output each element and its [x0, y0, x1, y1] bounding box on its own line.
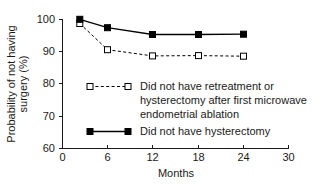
- legend-marker-filled-square-left: [87, 129, 93, 135]
- legend-marker-open-square-right: [125, 84, 131, 90]
- legend-label-no-retreatment-line1: Did not have retreatment or: [140, 80, 274, 92]
- legend-entry-no-hysterectomy: Did not have hysterectomy: [87, 125, 271, 137]
- y-tick-label-60: 60: [43, 142, 55, 154]
- x-axis-ticks: [63, 145, 289, 149]
- legend-marker-filled-square-right: [125, 129, 131, 135]
- y-tick-label-100: 100: [37, 13, 55, 25]
- legend-label-no-retreatment-line2: hysterectomy after first microwave: [140, 94, 307, 106]
- x-tick-label-30: 30: [282, 151, 294, 163]
- y-tick-label-70: 70: [43, 110, 55, 122]
- x-tick-label-0: 0: [59, 151, 65, 163]
- legend-label-no-retreatment-line3: endometrial ablation: [140, 108, 239, 120]
- y-tick-label-90: 90: [43, 45, 55, 57]
- line-chart-plot: 100 90 80 70 60 0 6 12 18 24 30 Months P…: [0, 0, 316, 184]
- y-axis-ticks: [59, 20, 63, 149]
- y-axis-title-line1: Probability of not having: [5, 25, 17, 142]
- legend-entry-no-retreatment: Did not have retreatment or hysterectomy…: [87, 80, 307, 120]
- y-axis-title-line2: surgery (%): [17, 56, 29, 113]
- legend-marker-open-square-left: [87, 84, 93, 90]
- x-tick-label-6: 6: [104, 151, 110, 163]
- x-tick-label-18: 18: [192, 151, 204, 163]
- y-tick-label-80: 80: [43, 77, 55, 89]
- x-tick-label-12: 12: [146, 151, 158, 163]
- x-axis-title: Months: [158, 167, 195, 179]
- legend-label-no-hysterectomy: Did not have hysterectomy: [140, 125, 271, 137]
- x-tick-label-24: 24: [237, 151, 249, 163]
- chart-figure: 100 90 80 70 60 0 6 12 18 24 30 Months P…: [0, 0, 316, 184]
